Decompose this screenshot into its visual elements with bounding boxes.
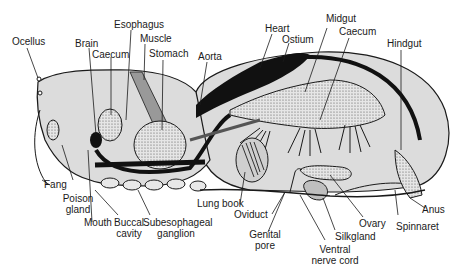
label-silkgland: Silkgland (335, 232, 376, 242)
label-poison-gland-1: Poison (60, 194, 96, 204)
label-lung-book: Lung book (197, 199, 244, 209)
label-anus: Anus (422, 205, 445, 215)
label-fang: Fang (44, 180, 67, 190)
label-brain: Brain (75, 39, 98, 49)
label-caecum-rear: Caecum (339, 27, 376, 37)
label-spinnaret: Spinnaret (396, 222, 439, 232)
label-hindgut: Hindgut (387, 39, 421, 49)
label-genital-1: Genital (247, 230, 283, 240)
label-aorta: Aorta (198, 52, 222, 62)
label-ventral-2: nerve cord (310, 256, 360, 266)
spider-anatomy-diagram: Ocellus Brain Esophagus Caecum Muscle St… (0, 0, 461, 275)
label-caecum-front: Caecum (92, 50, 129, 60)
label-poison-gland-2: gland (60, 205, 96, 215)
label-heart: Heart (265, 24, 289, 34)
label-stomach: Stomach (149, 49, 188, 59)
label-subesophageal-1: Subesophageal (143, 218, 209, 228)
label-ventral-1: Ventral (310, 245, 360, 255)
label-muscle: Muscle (140, 34, 172, 44)
label-esophagus: Esophagus (114, 20, 164, 30)
label-genital-2: pore (247, 241, 283, 251)
label-ovary: Ovary (359, 219, 386, 229)
label-ocellus: Ocellus (12, 37, 45, 47)
label-midgut: Midgut (326, 14, 356, 24)
label-ostium: Ostium (282, 35, 314, 45)
label-oviduct: Oviduct (234, 210, 268, 220)
label-subesophageal-2: ganglion (143, 229, 209, 239)
label-mouth: Mouth (84, 218, 112, 228)
